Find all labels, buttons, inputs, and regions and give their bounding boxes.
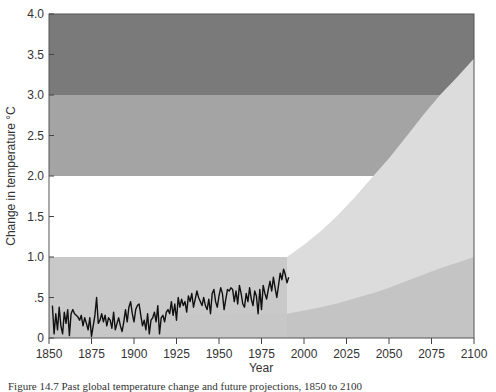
figure-caption: Figure 14.7 Past global temperature chan… <box>8 380 362 392</box>
x-tick-label: 1975 <box>248 347 275 361</box>
x-tick-label: 2100 <box>461 347 488 361</box>
x-tick-label: 1850 <box>36 347 63 361</box>
y-tick-label: 2.5 <box>27 129 44 143</box>
y-tick-label: 4.0 <box>27 7 44 21</box>
x-tick-label: 2075 <box>418 347 445 361</box>
x-axis-title: Year <box>249 361 273 375</box>
y-tick-label: 0 <box>37 331 44 345</box>
x-tick-label: 2050 <box>376 347 403 361</box>
x-tick-label: 2025 <box>333 347 360 361</box>
y-axis-title: Change in temperature °C <box>4 106 18 246</box>
y-tick-label: 2.0 <box>27 169 44 183</box>
y-tick-label: 3.5 <box>27 48 44 62</box>
y-tick-label: 1.5 <box>27 210 44 224</box>
x-tick-label: 1875 <box>78 347 105 361</box>
x-tick-label: 1900 <box>121 347 148 361</box>
y-tick-label: .5 <box>34 291 44 305</box>
y-tick-label: 3.0 <box>27 88 44 102</box>
x-tick-label: 1925 <box>163 347 190 361</box>
y-tick-label: 1.0 <box>27 250 44 264</box>
band-3-4 <box>49 14 474 95</box>
x-tick-label: 1950 <box>206 347 233 361</box>
x-tick-label: 2000 <box>291 347 318 361</box>
